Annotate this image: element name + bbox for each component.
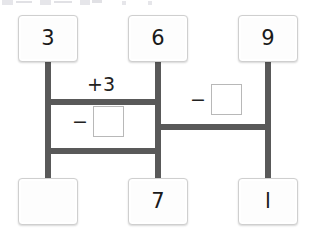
connector-hline-top [45, 99, 161, 105]
connector-hline-right [155, 124, 271, 130]
number-card-bottom-middle-value: 7 [151, 191, 164, 212]
minus-sign-icon: − [190, 90, 206, 109]
operation-minus-left: − [72, 106, 124, 137]
minus-sign-icon: − [72, 112, 88, 131]
number-card-bottom-right-value: l [265, 191, 271, 212]
connector-vline-middle [155, 60, 161, 180]
answer-blank-box-left[interactable] [93, 106, 124, 137]
number-card-top-left[interactable]: 3 [18, 15, 78, 62]
math-bar-model-diagram: 3 6 9 +3 − − 7 l [0, 0, 315, 240]
number-card-top-right[interactable]: 9 [238, 15, 298, 62]
operation-label-add-three: +3 [84, 75, 118, 94]
number-card-bottom-middle[interactable]: 7 [128, 178, 188, 225]
number-card-top-middle-value: 6 [151, 28, 164, 49]
number-card-top-left-value: 3 [41, 28, 54, 49]
connector-vline-left [45, 60, 51, 180]
number-card-top-right-value: 9 [261, 28, 274, 49]
number-card-top-middle[interactable]: 6 [128, 15, 188, 62]
number-card-bottom-left[interactable] [18, 178, 78, 225]
answer-blank-box-right[interactable] [211, 84, 242, 115]
operation-add-three-operand: 3 [103, 73, 115, 95]
operation-minus-right: − [190, 84, 242, 115]
connector-vline-right [265, 60, 271, 180]
operation-add-three-text: + [87, 73, 103, 95]
number-card-bottom-right[interactable]: l [238, 178, 298, 225]
connector-hline-bottom [45, 148, 161, 154]
